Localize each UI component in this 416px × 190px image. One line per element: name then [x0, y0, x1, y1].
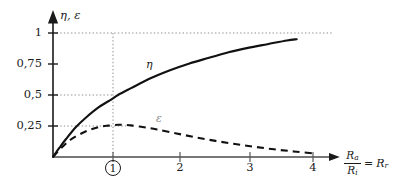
x-axis-title: Ra Ri = Rr — [344, 150, 388, 177]
y-tick-label-0-25: 0,25 — [8, 120, 42, 132]
y-tick-label-0-5: 0,5 — [8, 89, 42, 101]
y-axis-title: η, ε — [60, 10, 80, 22]
chart-figure: η, ε 1 0,75 0,5 0,25 1 2 3 4 Ra Ri = Rr … — [0, 0, 416, 190]
curve-epsilon — [53, 125, 313, 157]
x-tick-label-1-circled: 1 — [105, 160, 121, 176]
x-axis-title-numerator: Ra — [344, 150, 360, 162]
x-axis-title-right: Rr — [376, 158, 388, 170]
x-tick-label-4: 4 — [303, 162, 323, 174]
x-axis-title-fraction: Ra Ri — [344, 150, 361, 177]
curve-label-eta: η — [146, 59, 153, 70]
x-tick-label-2: 2 — [170, 162, 190, 174]
x-axis-title-denominator: Ri — [345, 165, 359, 177]
curve-eta — [53, 39, 297, 157]
y-tick-label-1: 1 — [8, 27, 42, 39]
x-tick-label-3: 3 — [240, 162, 260, 174]
curve-label-epsilon: ε — [156, 113, 162, 124]
x-axis-title-equals: = — [364, 158, 373, 169]
y-tick-label-0-75: 0,75 — [8, 58, 42, 70]
